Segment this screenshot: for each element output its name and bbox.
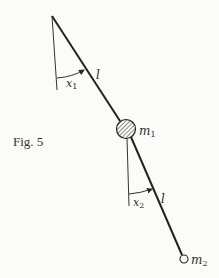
mass-2 (180, 255, 188, 263)
mass-label-2: m2 (191, 253, 207, 268)
length-label-2: l (161, 192, 165, 206)
mass-1 (117, 120, 136, 139)
angle-arc-2 (129, 189, 152, 194)
mass-label-1: m1 (139, 124, 155, 139)
length-label-1: l (96, 68, 100, 82)
vertical-reference-1 (52, 16, 57, 90)
angle-label-1: x1 (66, 77, 77, 91)
rod-1 (52, 16, 120, 121)
angle-label-2: x2 (133, 196, 144, 210)
double-pendulum-diagram: x1 l m1 x2 l m2 (0, 0, 219, 278)
vertical-reference-2 (127, 138, 129, 206)
